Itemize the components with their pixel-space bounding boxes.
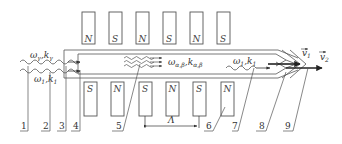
bottom-pole-3: S — [142, 84, 148, 94]
top-magnet-poles: N S N S N S — [84, 34, 227, 44]
omega1-input-label: ω1,k1 — [34, 74, 57, 85]
top-pole-5: N — [192, 34, 202, 44]
bottom-pole-6: N — [223, 84, 233, 94]
callout-7: 7 — [232, 121, 238, 131]
bottom-pole-2: N — [113, 84, 123, 94]
top-pole-3: N — [138, 34, 148, 44]
callout-6: 6 — [206, 121, 212, 131]
alpha-beta-label: ωα,β,kα,β — [168, 57, 203, 69]
v1-label: v1 — [301, 48, 311, 59]
callout-3: 3 — [59, 121, 65, 131]
bottom-pole-5: S — [196, 84, 202, 94]
top-pole-4: S — [166, 34, 172, 44]
callout-4: 4 — [73, 121, 79, 131]
top-magnet-array — [82, 12, 230, 44]
bottom-magnet-poles: S N S N S N — [87, 84, 233, 94]
top-pole-2: S — [112, 34, 118, 44]
callout-2: 2 — [43, 121, 49, 131]
alpha-beta-waves — [124, 57, 154, 68]
top-pole-1: N — [84, 34, 94, 44]
period-label: Λ — [167, 115, 175, 125]
callout-5: 5 — [116, 121, 122, 131]
bottom-magnet-array — [84, 82, 234, 116]
svg-text:v1: v1 — [302, 48, 311, 59]
bottom-pole-4: N — [168, 84, 178, 94]
omega1-output-label: ω1,k1 — [233, 56, 256, 67]
undulator-diagram: N S N S N S S N S N S N — [0, 0, 342, 144]
svg-text:v2: v2 — [320, 52, 329, 63]
callout-8: 8 — [259, 121, 265, 131]
v2-label: v2 — [319, 52, 329, 63]
top-pole-6: S — [220, 34, 226, 44]
callout-1: 1 — [21, 121, 27, 131]
callout-9: 9 — [285, 121, 291, 131]
bottom-pole-1: S — [87, 84, 93, 94]
